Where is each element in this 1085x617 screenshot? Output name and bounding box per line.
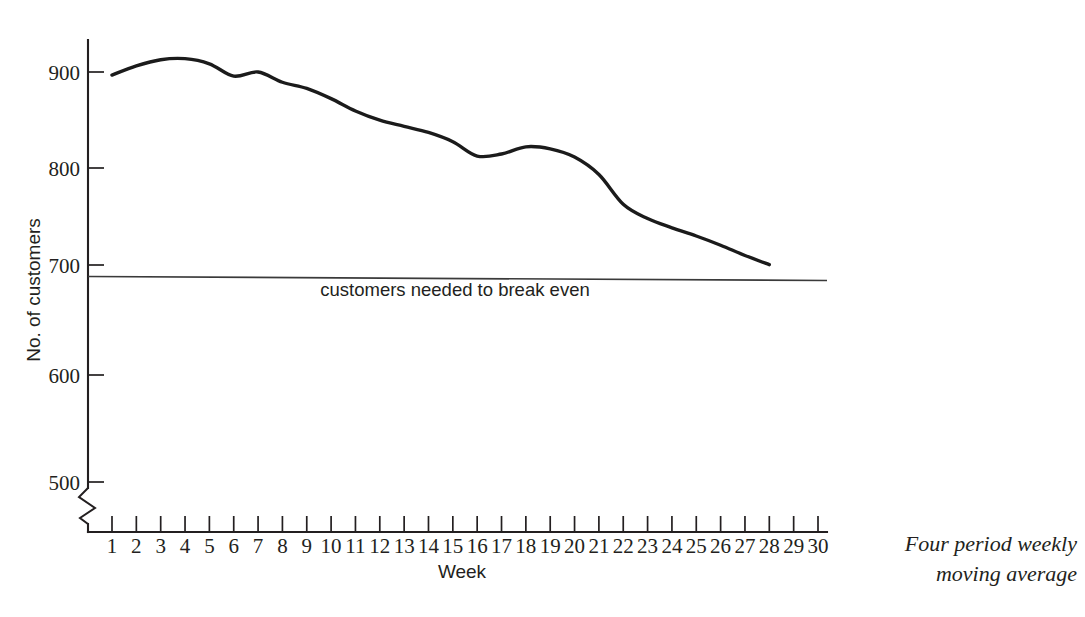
x-tick-label-10: 10 <box>321 534 342 558</box>
x-tick-label-15: 15 <box>442 534 463 558</box>
x-tick-label-27: 27 <box>734 534 755 558</box>
series-note-line-1: Four period weekly <box>904 531 1078 556</box>
x-tick-label-17: 17 <box>491 534 512 558</box>
x-tick-label-13: 13 <box>394 534 415 558</box>
y-tick-label-600: 600 <box>49 364 81 388</box>
x-tick-label-16: 16 <box>467 534 488 558</box>
y-tick-label-500: 500 <box>49 471 81 495</box>
y-tick-label-900: 900 <box>49 61 81 85</box>
x-tick-label-18: 18 <box>515 534 536 558</box>
x-tick-label-29: 29 <box>783 534 804 558</box>
y-axis-title: No. of customers <box>23 218 44 362</box>
x-tick-label-12: 12 <box>369 534 390 558</box>
x-tick-label-8: 8 <box>277 534 288 558</box>
x-tick-labels: 1234567891011121314151617181920212223242… <box>107 534 829 558</box>
moving-average-series <box>112 58 769 264</box>
x-tick-label-2: 2 <box>131 534 142 558</box>
line-chart: 900 800 700 600 500 12345678910111213141… <box>0 0 1085 617</box>
x-tick-label-25: 25 <box>686 534 707 558</box>
x-tick-label-9: 9 <box>302 534 313 558</box>
x-tick-label-22: 22 <box>613 534 634 558</box>
y-tick-labels: 900 800 700 600 500 <box>49 61 81 495</box>
x-tick-label-1: 1 <box>107 534 118 558</box>
y-axis-break-zigzag <box>79 488 95 524</box>
x-tick-label-23: 23 <box>637 534 658 558</box>
x-tick-label-7: 7 <box>253 534 264 558</box>
x-tick-label-6: 6 <box>228 534 239 558</box>
x-tick-label-28: 28 <box>759 534 780 558</box>
x-tick-label-24: 24 <box>661 534 683 558</box>
x-tick-label-26: 26 <box>710 534 731 558</box>
x-tick-label-5: 5 <box>204 534 215 558</box>
x-tick-marks <box>112 516 818 532</box>
series-note-line-2: moving average <box>936 561 1077 586</box>
x-tick-label-21: 21 <box>588 534 609 558</box>
y-tick-label-800: 800 <box>49 157 81 181</box>
x-tick-label-19: 19 <box>540 534 561 558</box>
x-tick-label-14: 14 <box>418 534 440 558</box>
x-tick-label-30: 30 <box>808 534 829 558</box>
chart-container: 900 800 700 600 500 12345678910111213141… <box>0 0 1085 617</box>
x-tick-label-20: 20 <box>564 534 585 558</box>
y-tick-label-700: 700 <box>49 254 81 278</box>
x-tick-label-11: 11 <box>345 534 365 558</box>
x-axis-title: Week <box>438 561 487 582</box>
x-tick-label-3: 3 <box>155 534 166 558</box>
break-even-label: customers needed to break even <box>320 279 589 300</box>
x-tick-label-4: 4 <box>180 534 191 558</box>
